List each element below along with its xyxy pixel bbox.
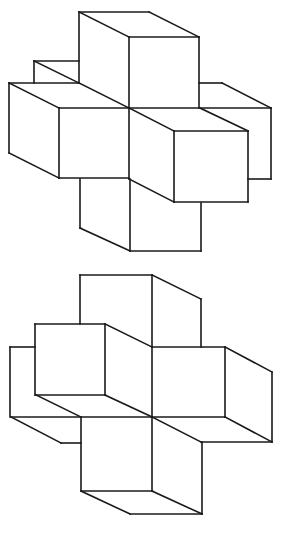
cube-edge (129, 108, 174, 131)
cube-edge (225, 347, 272, 372)
cube-edge (79, 83, 129, 108)
cross-of-cubes-bottom-figure (10, 275, 272, 514)
cube-edge (129, 179, 174, 202)
cube-edge (11, 417, 61, 443)
cube-edge (200, 108, 248, 131)
diagram-canvas (0, 0, 286, 543)
cube-edge (36, 395, 81, 417)
cube-edge (9, 153, 59, 178)
cube-edge (152, 275, 201, 299)
cube-edge (152, 491, 202, 514)
cube-edge (79, 12, 129, 37)
cross-of-cubes-top-figure (9, 12, 271, 251)
cube-edge (105, 324, 152, 347)
cube-edge (105, 395, 152, 417)
cube-edge (222, 83, 271, 108)
cube-edge (225, 417, 272, 442)
cube-edge (34, 61, 79, 83)
cube-edge (149, 12, 199, 37)
cube-edge (80, 228, 130, 251)
cube-edge (152, 417, 201, 442)
cube-edge (9, 83, 59, 108)
cube-edge (81, 491, 130, 514)
